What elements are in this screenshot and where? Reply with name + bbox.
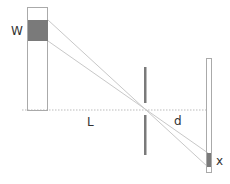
label-x: x xyxy=(216,154,223,168)
image-block xyxy=(207,153,211,167)
source-block xyxy=(28,20,48,41)
barrier-upper xyxy=(144,67,147,103)
label-L: L xyxy=(87,115,94,129)
barrier-lower xyxy=(144,115,147,155)
ray-bottom xyxy=(48,41,208,153)
optics-diagram: W L d x xyxy=(0,0,230,184)
label-d: d xyxy=(174,114,182,128)
label-W: W xyxy=(11,24,23,38)
ray-top xyxy=(48,20,208,167)
